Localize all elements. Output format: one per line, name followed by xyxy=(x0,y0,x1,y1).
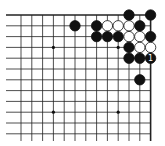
black-stone[interactable] xyxy=(113,31,123,41)
black-stone[interactable] xyxy=(91,21,101,31)
black-stone[interactable] xyxy=(124,42,134,52)
white-stone[interactable] xyxy=(145,42,155,52)
white-stone[interactable] xyxy=(102,21,112,31)
go-board[interactable]: 1 xyxy=(0,0,165,146)
star-point xyxy=(117,46,120,49)
white-stone[interactable] xyxy=(135,42,145,52)
white-stone[interactable] xyxy=(113,21,123,31)
white-stone[interactable] xyxy=(124,31,134,41)
black-stone[interactable] xyxy=(91,31,101,41)
star-point xyxy=(117,111,120,114)
black-stone[interactable] xyxy=(145,10,155,20)
black-stone[interactable] xyxy=(124,10,134,20)
black-stone[interactable] xyxy=(124,53,134,63)
black-stone[interactable] xyxy=(135,75,145,85)
white-stone[interactable] xyxy=(135,31,145,41)
white-stone[interactable] xyxy=(124,21,134,31)
black-stone[interactable] xyxy=(102,31,112,41)
black-stone[interactable] xyxy=(135,53,145,63)
star-point xyxy=(52,46,55,49)
black-stone[interactable] xyxy=(145,31,155,41)
move-number-label: 1 xyxy=(148,54,153,63)
star-point xyxy=(52,111,55,114)
black-stone[interactable] xyxy=(70,21,80,31)
black-stone[interactable] xyxy=(135,21,145,31)
